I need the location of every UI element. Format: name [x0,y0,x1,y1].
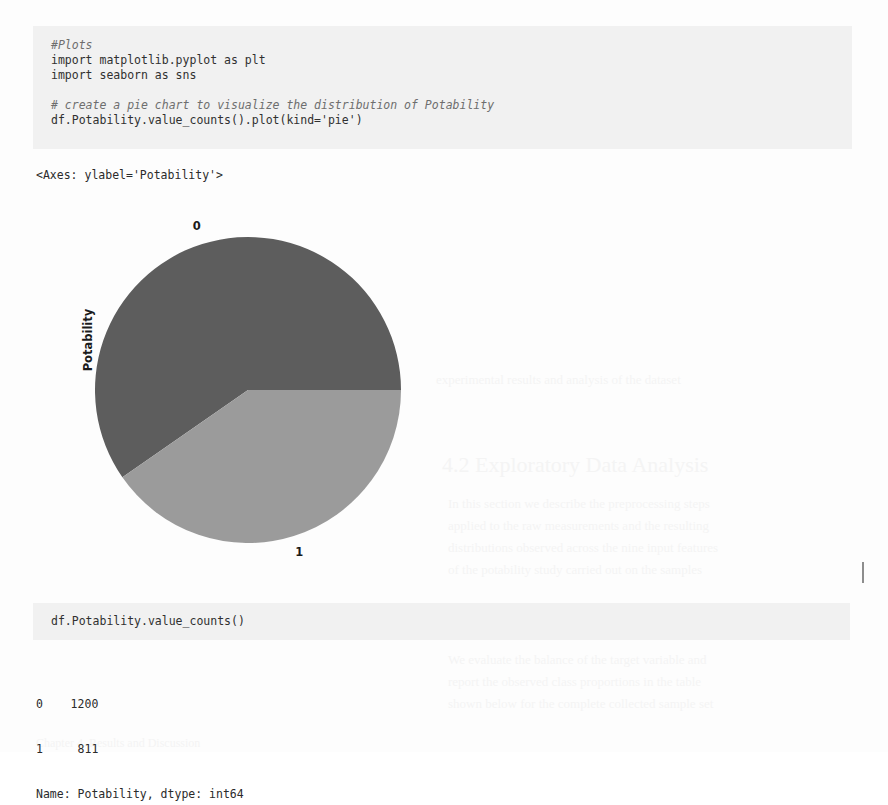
code-cell-plots[interactable]: #Plots import matplotlib.pyplot as plt i… [33,26,852,149]
code-line-blank [51,83,852,98]
ghost-text-line: shown below for the complete collected s… [448,696,713,712]
pie-svg [95,237,401,543]
ghost-text-line: experimental results and analysis of the… [436,372,681,388]
ghost-text-line: distributions observed across the nine i… [448,540,718,556]
code-cell-value-counts[interactable]: df.Potability.value_counts() [33,603,850,640]
ghost-text-line: We evaluate the balance of the target va… [448,652,707,668]
code-line: # create a pie chart to visualize the di… [51,98,852,113]
ghost-text-line: In this section we describe the preproce… [448,496,710,512]
chart-ylabel: Potability [81,280,95,400]
pie-slice-label-1: 1 [295,545,303,559]
ghost-text-line: applied to the raw measurements and the … [448,518,709,534]
ghost-text-line: of the potability study carried out on t… [448,562,702,578]
code-line: #Plots [51,38,852,53]
scan-artifact-mark [862,562,864,583]
pie-slice-label-0: 0 [193,219,201,233]
pie-chart-figure: Potability 0 1 [40,205,460,570]
axes-repr-output: <Axes: ylabel='Potability'> [36,168,223,183]
ghost-text-line: report the observed class proportions in… [448,674,701,690]
value-counts-output: 0 1200 1 811 Name: Potability, dtype: in… [36,667,244,805]
output-line: 1 811 [36,742,244,757]
output-line: 0 1200 [36,697,244,712]
pie-canvas: 0 1 [95,237,401,543]
code-line: df.Potability.value_counts() [51,614,850,629]
ghost-text-line: 4.2 Exploratory Data Analysis [442,452,708,478]
output-line: Name: Potability, dtype: int64 [36,787,244,802]
code-line: import seaborn as sns [51,68,852,83]
code-line: import matplotlib.pyplot as plt [51,53,852,68]
code-line: df.Potability.value_counts().plot(kind='… [51,113,852,128]
